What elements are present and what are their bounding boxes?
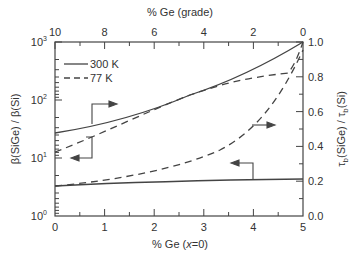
svg-text:100: 100 <box>31 209 47 222</box>
top-axis-labels: 10 8 6 4 2 0 <box>49 26 306 38</box>
svg-text:2: 2 <box>151 221 157 233</box>
top-axis-ticks <box>55 42 278 49</box>
series-beta-300k <box>55 179 303 186</box>
right-axis-labels: 0.0 0.2 0.4 0.6 0.8 1.0 <box>308 36 323 222</box>
svg-text:0.2: 0.2 <box>308 175 323 187</box>
chart-figure: % Ge (grade) 10 8 6 4 2 0 0 1 2 3 4 5 % … <box>0 0 356 258</box>
legend: 300 K 77 K <box>64 58 119 84</box>
bottom-axis-labels: 0 1 2 3 4 5 <box>52 221 306 233</box>
svg-text:101: 101 <box>31 151 47 164</box>
svg-text:0.0: 0.0 <box>308 210 323 222</box>
top-axis-title: % Ge (grade) <box>147 6 213 18</box>
svg-text:1.0: 1.0 <box>308 36 323 48</box>
svg-text:0.4: 0.4 <box>308 140 323 152</box>
bottom-axis-title: % Ge (x=0) <box>152 238 208 250</box>
svg-text:0.8: 0.8 <box>308 71 323 83</box>
svg-text:0.6: 0.6 <box>308 106 323 118</box>
svg-text:2: 2 <box>250 26 256 38</box>
legend-label-300k: 300 K <box>90 58 119 70</box>
bottom-axis-ticks <box>80 209 278 216</box>
left-axis-title: β(SiGe) / β(Si) <box>9 94 21 165</box>
left-axis-labels: 100 101 102 103 <box>31 35 47 222</box>
arrow-right-lower <box>252 122 275 128</box>
right-axis-ticks <box>296 42 303 199</box>
svg-text:103: 103 <box>31 35 47 48</box>
svg-text:0: 0 <box>300 26 306 38</box>
svg-text:8: 8 <box>102 26 108 38</box>
arrow-left-upper <box>71 137 92 161</box>
svg-text:4: 4 <box>250 221 256 233</box>
svg-text:102: 102 <box>31 93 47 106</box>
svg-text:5: 5 <box>300 221 306 233</box>
arrow-left-lower <box>231 160 253 179</box>
legend-label-77k: 77 K <box>90 72 113 84</box>
svg-text:6: 6 <box>151 26 157 38</box>
svg-text:4: 4 <box>201 26 207 38</box>
svg-text:0: 0 <box>52 221 58 233</box>
right-axis-title: τb(SiGe) / τb(Si) <box>335 91 350 167</box>
left-axis-ticks <box>55 42 62 213</box>
svg-text:10: 10 <box>49 26 61 38</box>
svg-text:3: 3 <box>201 221 207 233</box>
svg-text:1: 1 <box>102 221 108 233</box>
